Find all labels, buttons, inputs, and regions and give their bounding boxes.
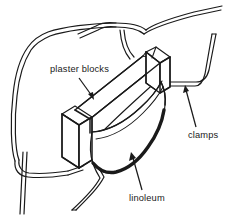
label-clamps: clamps <box>188 130 218 141</box>
label-linoleum: linoleum <box>129 193 165 204</box>
label-plaster-blocks: plaster blocks <box>50 64 109 75</box>
illustration-drawing <box>0 0 231 224</box>
technical-illustration-figure: plaster blocks clamps linoleum <box>0 0 231 224</box>
